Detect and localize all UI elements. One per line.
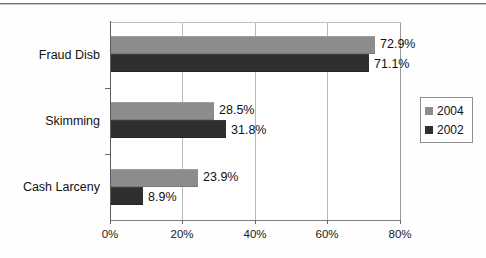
x-tick-label-20: 20% bbox=[159, 228, 205, 240]
bar-fraud-disb-2004 bbox=[111, 36, 375, 54]
bar-chart-figure: 0% 20% 40% 60% 80% Fraud Disb Skimming C… bbox=[0, 0, 486, 258]
legend: 2004 2002 bbox=[420, 97, 473, 143]
x-tick-40 bbox=[255, 220, 256, 224]
x-tick-label-40: 40% bbox=[232, 228, 278, 240]
data-label-skimming-2002: 31.8% bbox=[231, 123, 266, 137]
legend-entry-2002[interactable]: 2002 bbox=[425, 124, 464, 136]
y-tick-2 bbox=[105, 154, 110, 155]
x-tick-20 bbox=[182, 220, 183, 224]
gridline-80 bbox=[400, 22, 401, 220]
y-tick-1 bbox=[105, 88, 110, 89]
data-label-fraud-disb-2002: 71.1% bbox=[374, 57, 409, 71]
x-tick-label-80: 80% bbox=[377, 228, 423, 240]
category-label-skimming: Skimming bbox=[45, 114, 100, 128]
bar-cash-larceny-2002 bbox=[111, 187, 143, 205]
category-label-cash-larceny: Cash Larceny bbox=[23, 180, 100, 194]
bar-fraud-disb-2002 bbox=[111, 54, 369, 72]
bar-cash-larceny-2004 bbox=[111, 169, 198, 187]
x-tick-label-0: 0% bbox=[87, 228, 133, 240]
plot-top-edge bbox=[110, 22, 401, 23]
bar-skimming-2004 bbox=[111, 102, 214, 120]
data-label-fraud-disb-2004: 72.9% bbox=[380, 37, 415, 51]
data-label-skimming-2004: 28.5% bbox=[219, 103, 254, 117]
legend-label-2004: 2004 bbox=[437, 105, 464, 117]
legend-entry-2004[interactable]: 2004 bbox=[425, 105, 464, 117]
category-label-fraud-disb: Fraud Disb bbox=[39, 48, 100, 62]
data-label-cash-larceny-2004: 23.9% bbox=[203, 170, 238, 184]
x-tick-label-60: 60% bbox=[304, 228, 350, 240]
legend-swatch-2002-icon bbox=[425, 126, 433, 134]
x-tick-0 bbox=[110, 220, 111, 224]
page-top-rule-shadow bbox=[0, 4, 486, 5]
x-tick-80 bbox=[400, 220, 401, 224]
legend-label-2002: 2002 bbox=[437, 124, 464, 136]
bar-skimming-2002 bbox=[111, 120, 226, 138]
x-tick-60 bbox=[327, 220, 328, 224]
data-label-cash-larceny-2002: 8.9% bbox=[148, 190, 177, 204]
legend-swatch-2004-icon bbox=[425, 107, 433, 115]
